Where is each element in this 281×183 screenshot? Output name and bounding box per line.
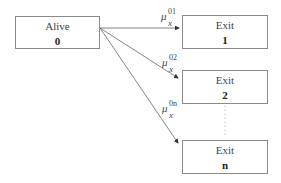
state-exit-2-title: Exit	[183, 74, 267, 86]
state-exit-2-index: 2	[183, 89, 267, 101]
state-alive-index: 0	[16, 35, 99, 47]
state-exit-n-index: n	[183, 159, 267, 171]
transition-label-02: μ 02 x	[162, 56, 168, 68]
arrow-0-to-2	[100, 28, 178, 78]
state-alive-title: Alive	[16, 20, 99, 32]
state-alive: Alive 0	[15, 16, 100, 49]
state-exit-n: Exit n	[182, 140, 268, 174]
state-exit-1-index: 1	[183, 34, 267, 46]
arrow-0-to-n	[100, 28, 178, 143]
transition-label-01: μ 01 x	[161, 10, 167, 22]
transition-label-0n: μ 0n x	[162, 102, 168, 114]
state-exit-n-title: Exit	[183, 144, 267, 156]
state-exit-1-title: Exit	[183, 19, 267, 31]
state-exit-1: Exit 1	[182, 15, 268, 49]
state-exit-2: Exit 2	[182, 70, 268, 104]
